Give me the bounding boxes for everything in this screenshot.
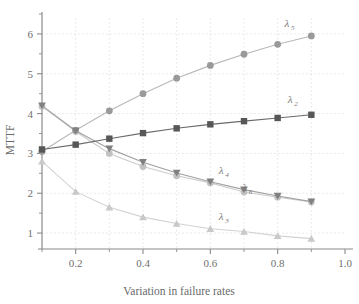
x-axis-title: Variation in failure rates <box>123 285 235 297</box>
data-point-square <box>140 130 146 136</box>
lambda-subscript: 2 <box>294 100 298 108</box>
y-tick-label: 3 <box>28 147 34 159</box>
lambda-symbol: λ <box>283 17 289 29</box>
data-point-square <box>207 121 213 127</box>
data-point-circle <box>207 62 214 69</box>
y-tick-label: 5 <box>28 68 34 80</box>
y-tick-label: 2 <box>28 187 34 199</box>
x-tick-label: 0.6 <box>203 257 217 269</box>
mttf-line-chart: 1234560.20.40.60.81.0 λ5λ2λ4λ6λ3 Variati… <box>0 0 359 304</box>
data-point-square <box>173 125 179 131</box>
lambda-symbol: λ <box>287 93 293 105</box>
data-point-circle <box>140 90 147 97</box>
data-point-circle <box>308 33 315 40</box>
data-point-circle <box>241 51 248 58</box>
y-tick-label: 6 <box>28 28 34 40</box>
lambda-subscript: 6 <box>249 188 253 196</box>
y-tick-label: 1 <box>28 227 34 239</box>
data-point-square <box>308 112 314 118</box>
data-point-circle <box>106 107 113 114</box>
data-point-circle <box>173 75 180 82</box>
y-axis-title: MTTF <box>4 125 16 156</box>
lambda-symbol: λ <box>218 210 224 222</box>
lambda-symbol: λ <box>218 164 224 176</box>
data-point-square <box>241 118 247 124</box>
y-tick-label: 4 <box>28 108 34 120</box>
x-tick-label: 0.2 <box>69 257 83 269</box>
x-tick-label: 0.8 <box>271 257 285 269</box>
lambda-subscript: 4 <box>225 171 229 179</box>
x-tick-label: 1.0 <box>338 257 352 269</box>
lambda-subscript: 3 <box>224 217 229 225</box>
data-point-square <box>106 135 112 141</box>
x-tick-label: 0.4 <box>136 257 150 269</box>
data-point-square <box>39 146 45 152</box>
chart-background <box>0 0 359 304</box>
data-point-circle <box>274 41 281 48</box>
data-point-square <box>274 115 280 121</box>
lambda-subscript: 5 <box>291 24 295 32</box>
data-point-square <box>72 141 78 147</box>
chart-container: 1234560.20.40.60.81.0 λ5λ2λ4λ6λ3 Variati… <box>0 0 359 304</box>
lambda-symbol: λ <box>241 181 247 193</box>
